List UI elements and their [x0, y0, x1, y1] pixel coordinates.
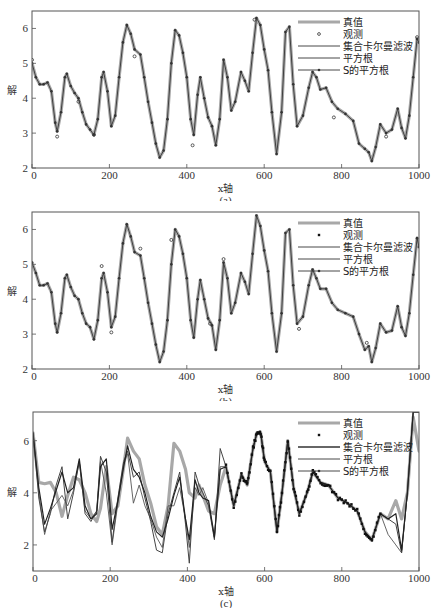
observation-dot — [282, 479, 284, 481]
sqrt-s-marker — [296, 125, 299, 128]
observation-dot — [222, 258, 225, 261]
legend-label: 真值 — [343, 417, 363, 429]
legend: 真值观测集合卡尔曼滤波平方根S的平方根 — [298, 217, 413, 277]
observation-dot — [239, 479, 241, 481]
y-tick-label: 5 — [23, 258, 29, 270]
legend-label: 真值 — [343, 16, 363, 28]
sqrt-s-marker — [331, 100, 334, 103]
sqrt-s-marker — [56, 130, 59, 133]
observation-dot — [281, 492, 283, 494]
sqrt-s-marker — [288, 25, 291, 28]
sqrt-s-marker — [222, 261, 225, 264]
observation-dot — [225, 463, 227, 465]
legend-label: 集合卡尔曼滤波 — [343, 441, 413, 453]
observation-dot — [260, 433, 262, 435]
legend-swatch-marker — [318, 470, 321, 473]
observation-dot — [332, 116, 335, 119]
sqrt-s-marker — [259, 225, 262, 228]
sqrt-s-marker — [178, 235, 181, 238]
sqrt-s-marker — [311, 268, 314, 271]
y-tick-label: 2 — [24, 539, 30, 551]
observation-dot — [278, 514, 280, 516]
observation-dot — [240, 472, 242, 474]
sqrt-s-marker — [178, 34, 181, 37]
sqrt-s-marker — [207, 317, 210, 320]
sqrt-s-marker — [284, 31, 287, 34]
observation-dot — [265, 461, 267, 463]
sqrt-s-marker — [66, 274, 69, 277]
observation-dot — [288, 447, 290, 449]
sqrt-s-marker — [203, 298, 206, 301]
observation-dot — [309, 480, 311, 482]
sqrt-s-marker — [85, 322, 88, 325]
observation-dot — [301, 506, 303, 508]
observation-dot — [359, 517, 361, 519]
legend-swatch-observation — [318, 234, 320, 236]
sqrt-s-marker — [189, 118, 192, 121]
sqrt-s-marker — [102, 272, 105, 275]
sqrt-s-marker — [186, 76, 189, 79]
legend-label: 平方根 — [343, 52, 373, 64]
sqrt-s-marker — [126, 223, 129, 226]
sqrt-s-marker — [288, 228, 291, 231]
x-tick-label: 200 — [101, 169, 118, 181]
sqrt-s-marker — [158, 361, 161, 364]
sqrt-s-marker — [46, 81, 49, 84]
sqrt-s-marker — [336, 107, 339, 110]
sqrt-s-marker — [325, 86, 328, 89]
sqrt-s-marker — [247, 293, 250, 296]
sqrt-s-marker — [155, 142, 158, 145]
sqrt-s-marker — [263, 48, 266, 51]
y-tick-label: 4 — [23, 293, 29, 305]
sqrt-s-marker — [60, 312, 63, 315]
observation-dot — [110, 331, 113, 334]
sqrt-s-marker — [370, 160, 373, 163]
y-tick-label: 2 — [23, 162, 29, 174]
y-tick-label: 6 — [23, 223, 29, 235]
sqrt-s-marker — [66, 73, 69, 76]
sqrt-s-marker — [143, 76, 146, 79]
observation-dot — [297, 509, 299, 511]
sqrt-s-marker — [192, 134, 195, 137]
sqrt-s-marker — [60, 111, 63, 114]
observation-dot — [277, 525, 279, 527]
sqrt-s-marker — [302, 315, 305, 318]
observation-dot — [247, 477, 249, 479]
sqrt-s-marker — [147, 100, 150, 103]
sqrt-s-marker — [367, 345, 370, 348]
x-tick-label: 1000 — [408, 370, 431, 382]
observation-dot — [246, 482, 248, 484]
sqrt-s-marker — [307, 86, 310, 89]
sqrt-s-marker — [319, 88, 322, 91]
sqrt-s-marker — [100, 277, 103, 280]
chart-panel-a: 0200400600800100023456x轴解(a)真值观测集合卡尔曼滤波平… — [0, 0, 435, 201]
observation-dot — [329, 485, 331, 487]
legend-swatch-observation — [318, 33, 321, 36]
sqrt-s-marker — [129, 235, 132, 238]
observation-dot — [304, 496, 306, 498]
observation-dot — [284, 461, 286, 463]
sqrt-s-marker — [358, 142, 361, 145]
legend-label: 观测 — [343, 229, 363, 241]
sqrt-s-marker — [400, 127, 403, 130]
sqrt-s-marker — [73, 92, 76, 95]
sqrt-s-marker — [367, 151, 370, 154]
sqrt-s-marker — [118, 76, 121, 79]
sqrt-s-marker — [35, 272, 38, 275]
chart-panel-b: 0200400600800100023456x轴解(b)真值观测集合卡尔曼滤波平… — [0, 201, 435, 401]
sqrt-s-marker — [319, 287, 322, 290]
sqrt-s-marker — [38, 284, 41, 287]
sqrt-s-marker — [244, 280, 247, 283]
sqrt-s-marker — [56, 331, 59, 334]
sqrt-s-marker — [400, 326, 403, 329]
sqrt-s-marker — [69, 286, 72, 289]
sqrt-s-marker — [199, 76, 202, 79]
sqrt-s-marker — [106, 291, 109, 294]
legend: 真值观测集合卡尔曼滤波平方根S的平方根 — [298, 417, 413, 477]
observation-dot — [266, 465, 268, 467]
x-tick-label: 0 — [31, 370, 37, 382]
sqrt-s-marker — [385, 331, 388, 334]
sqrt-s-marker — [133, 251, 136, 254]
sqrt-s-marker — [106, 90, 109, 93]
observation-dot — [56, 135, 59, 138]
